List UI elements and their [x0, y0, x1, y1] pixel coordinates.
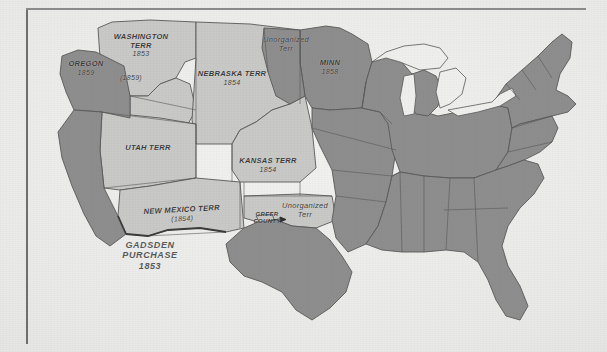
- texas-shape: [226, 220, 352, 320]
- scan-frame-top-rule: [26, 8, 586, 10]
- united-states-map: [0, 0, 607, 352]
- lake-huron-erie-shape: [436, 68, 466, 108]
- scan-frame-left-rule: [26, 8, 28, 344]
- minnesota-shape: [300, 26, 372, 110]
- southern-states-shape: [366, 160, 544, 320]
- utah-territory-shape: [100, 112, 196, 190]
- map-screenshot: WASHINGTON TERR 1853 (1859) OREGON 1859 …: [0, 0, 607, 352]
